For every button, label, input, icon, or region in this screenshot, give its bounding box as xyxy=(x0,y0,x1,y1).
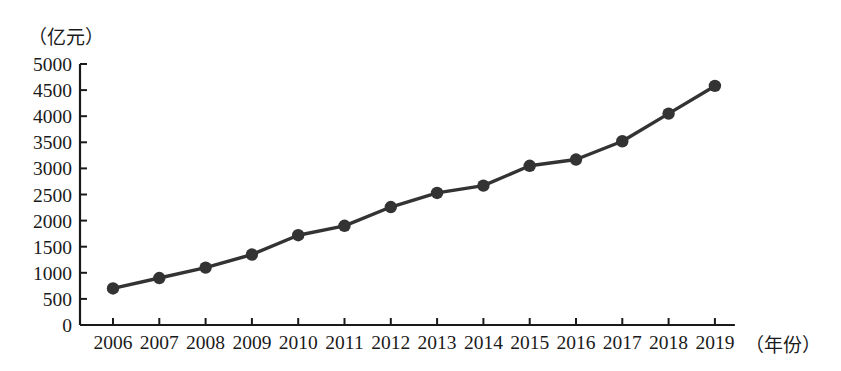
y-axis-tick-label: 0 xyxy=(62,315,72,336)
x-axis-tick-label: 2008 xyxy=(186,332,225,353)
x-axis-tick-label: 2009 xyxy=(232,332,271,353)
y-axis-tick-label: 4500 xyxy=(33,80,72,101)
x-axis-tick-label: 2014 xyxy=(464,332,503,353)
x-axis-tick-label: 2011 xyxy=(325,332,363,353)
x-axis-tick-label: 2017 xyxy=(603,332,642,353)
y-axis-tick-label: 500 xyxy=(43,289,72,310)
x-axis-tick-label: 2015 xyxy=(510,332,549,353)
data-point-marker xyxy=(524,160,536,172)
x-axis-tick-label: 2012 xyxy=(371,332,410,353)
data-point-marker xyxy=(616,135,628,147)
series-line xyxy=(113,86,715,289)
y-axis-tick-label: 2000 xyxy=(33,211,72,232)
data-point-marker xyxy=(199,261,211,273)
y-axis-tick-label: 4000 xyxy=(33,106,72,127)
y-axis-tick-label: 1000 xyxy=(33,263,72,284)
data-point-marker xyxy=(385,201,397,213)
x-axis-tick-label: 2018 xyxy=(649,332,688,353)
y-axis-tick-label: 3500 xyxy=(33,132,72,153)
data-point-marker xyxy=(338,220,350,232)
data-point-marker xyxy=(431,187,443,199)
x-axis-tick-label: 2016 xyxy=(557,332,596,353)
x-axis-tick-label: 2006 xyxy=(94,332,133,353)
data-markers xyxy=(107,80,721,295)
x-axis-tick-label: 2007 xyxy=(140,332,179,353)
x-axis-tick-label: 2010 xyxy=(279,332,318,353)
x-axis: 2006200720082009201020112012201320142015… xyxy=(80,318,735,353)
data-point-marker xyxy=(292,229,304,241)
x-axis-tick-label: 2019 xyxy=(695,332,734,353)
line-chart: （亿元） （年份） 050010001500200025003000350040… xyxy=(0,0,841,371)
y-axis: 0500100015002000250030003500400045005000 xyxy=(33,54,87,336)
data-point-marker xyxy=(246,248,258,260)
data-point-marker xyxy=(477,179,489,191)
x-axis-tick-label: 2013 xyxy=(418,332,457,353)
data-point-marker xyxy=(107,282,119,294)
chart-canvas: 0500100015002000250030003500400045005000… xyxy=(0,0,841,371)
data-point-marker xyxy=(662,107,674,119)
y-axis-tick-label: 5000 xyxy=(33,54,72,75)
data-point-marker xyxy=(570,153,582,165)
data-point-marker xyxy=(709,80,721,92)
data-series xyxy=(113,86,715,289)
y-axis-tick-label: 2500 xyxy=(33,185,72,206)
data-point-marker xyxy=(153,272,165,284)
y-axis-tick-label: 3000 xyxy=(33,158,72,179)
y-axis-tick-label: 1500 xyxy=(33,237,72,258)
